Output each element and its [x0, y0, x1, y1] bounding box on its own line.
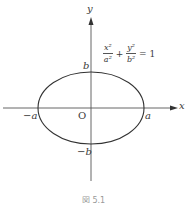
fraction-y-denominator: b² [127, 54, 135, 64]
fraction-x-denominator: a² [104, 54, 112, 64]
x-axis-arrow-icon [170, 106, 178, 111]
point-b-label: b [83, 61, 89, 71]
point-neg-b-label: −b [77, 147, 92, 157]
fraction-x-numerator: x² [103, 43, 113, 54]
point-neg-a-label: −a [23, 111, 37, 121]
ellipse-equation: x² a² + y² b² = 1 [103, 43, 156, 64]
diagram-canvas [0, 0, 187, 203]
ellipse-diagram: x y O a −a b −b x² a² + y² b² = 1 図 5.1 [0, 0, 187, 203]
plus-sign: + [116, 49, 124, 59]
equals-one: = 1 [139, 49, 155, 59]
fraction-y-numerator: y² [126, 43, 136, 54]
origin-label: O [78, 111, 86, 121]
point-a-label: a [145, 111, 151, 121]
x-axis-label: x [179, 101, 185, 111]
fraction-x: x² a² [103, 43, 113, 64]
figure-caption: 図 5.1 [0, 195, 187, 203]
y-axis-label: y [87, 4, 93, 14]
y-axis-arrow-icon [89, 17, 94, 25]
fraction-y: y² b² [126, 43, 136, 64]
